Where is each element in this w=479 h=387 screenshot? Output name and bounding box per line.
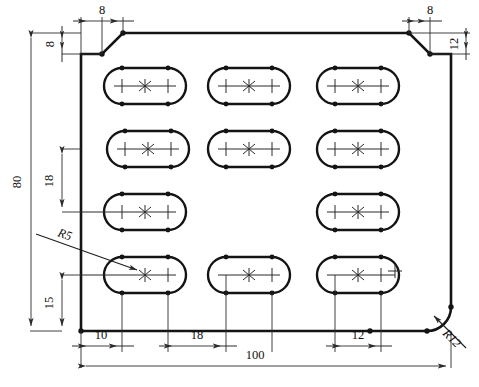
slot-row-3 — [81, 192, 399, 233]
dim-label-offset-15: 15 — [42, 297, 56, 310]
dim-label-chamfer-left-v: 8 — [43, 41, 57, 47]
slot-row-2 — [107, 129, 399, 170]
dimension-chamfer-left-vertical: 8 — [43, 26, 62, 62]
dimension-chamfer-left-horizontal: 8 — [73, 3, 134, 21]
slot-r2c1 — [107, 129, 189, 170]
radius-label-r12: R12 — [439, 326, 464, 351]
slot-row-4 — [81, 255, 402, 296]
dimension-overall-height: 80 — [10, 38, 31, 326]
node-dot — [367, 328, 372, 333]
slot-r1c3 — [317, 66, 399, 107]
dim-label-overall-height: 80 — [10, 176, 24, 189]
slot-r4c2 — [208, 255, 290, 296]
outline-node-dots — [78, 30, 453, 333]
dim-label-chamfer-left-h: 8 — [99, 3, 105, 17]
dim-label-overall-width: 100 — [246, 348, 265, 362]
dimension-chamfer-right-horizontal: 8 — [402, 3, 442, 21]
radius-leader-r12: R12 — [434, 316, 466, 350]
slot-row-1 — [104, 66, 399, 107]
radius-label-r5: R5 — [55, 225, 74, 243]
dimension-overall-width: 100 — [86, 348, 446, 366]
slot-r3c3 — [317, 192, 399, 233]
slot-r1c2 — [208, 66, 290, 107]
slot-r4c3 — [317, 255, 402, 296]
slot-r4c1 — [81, 255, 186, 296]
dimension-pitch-vertical: 18 — [42, 154, 62, 207]
dim-label-offset-10: 10 — [95, 328, 108, 342]
dim-label-slot-12: 12 — [352, 328, 365, 342]
slot-r2c3 — [317, 129, 399, 170]
cad-drawing-svg: 8 8 8 12 80 1 — [0, 0, 479, 387]
dimension-bottom-offset: 15 — [42, 280, 62, 326]
node-dot — [448, 304, 453, 309]
slot-r3c1 — [81, 192, 186, 233]
dim-label-pitch-18: 18 — [42, 175, 56, 188]
dim-label-chamfer-right-h: 8 — [427, 3, 433, 17]
dim-label-chamfer-right-v: 12 — [447, 38, 461, 51]
slot-r2c2 — [208, 129, 290, 170]
node-dot — [424, 328, 429, 333]
slot-r1c1 — [104, 66, 186, 107]
technical-drawing-canvas: 8 8 8 12 80 1 — [0, 0, 479, 387]
extension-lines — [30, 17, 470, 368]
dim-label-slot-18: 18 — [191, 328, 204, 342]
